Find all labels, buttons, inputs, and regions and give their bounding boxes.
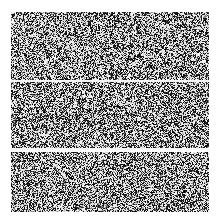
noise-block [11, 12, 209, 212]
noise-surface-middle [11, 82, 209, 150]
noise-surface-top [11, 12, 209, 80]
lower-seam-line [11, 148, 209, 150]
image-canvas: Grayscale Random Noise Texture A scanned… [0, 0, 223, 224]
noise-surface-bottom [11, 152, 209, 212]
noise-band-bottom [11, 152, 209, 212]
noise-band-top [11, 12, 209, 80]
noise-band-middle [11, 82, 209, 150]
